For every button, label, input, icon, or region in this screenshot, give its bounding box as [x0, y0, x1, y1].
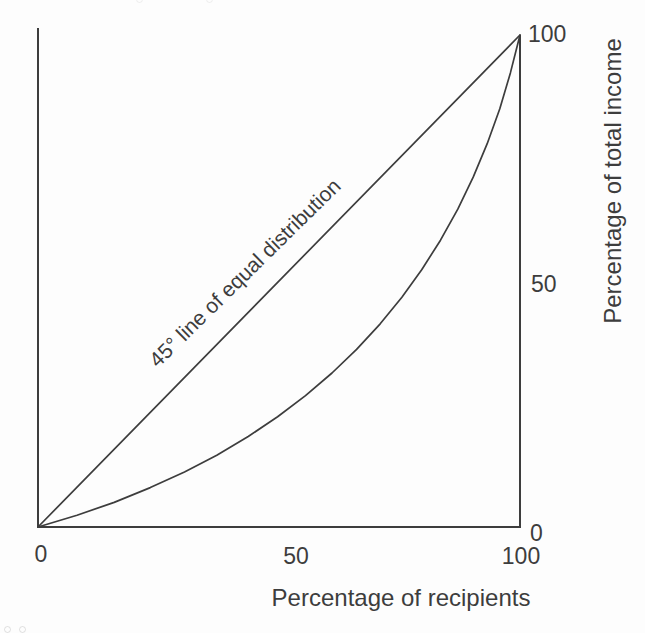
- y-tick-label-100: 100: [528, 21, 566, 48]
- y-axis-title: Percentage of total income: [599, 38, 627, 324]
- y-tick-label-0: 0: [530, 520, 543, 547]
- y-tick-label-50: 50: [531, 271, 557, 298]
- x-tick-label-0: 0: [35, 541, 48, 568]
- x-axis-title: Percentage of recipients: [272, 584, 531, 612]
- plot-canvas: [0, 0, 645, 633]
- page-edge-artifact: [4, 626, 11, 633]
- page-edge-artifact: [19, 626, 26, 633]
- lorenz-curve-figure: 0 50 100 0 50 100 Percentage of recipien…: [0, 0, 645, 633]
- equality-line: [38, 35, 520, 527]
- x-tick-label-100: 100: [502, 543, 540, 570]
- x-tick-label-50: 50: [283, 543, 309, 570]
